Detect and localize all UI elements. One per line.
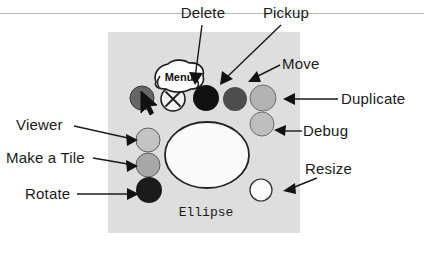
ellipse-shape[interactable] <box>165 122 249 188</box>
ellipse-shape-label: Ellipse <box>179 205 234 220</box>
callout-debug-label: Debug <box>303 122 348 139</box>
debug-handle[interactable] <box>250 112 274 136</box>
callout-resize-label: Resize <box>305 160 352 177</box>
rotate-handle[interactable] <box>136 177 162 203</box>
callout-rotate-label: Rotate <box>25 185 70 202</box>
pickup-handle[interactable] <box>223 87 247 111</box>
diagram-canvas: Ellipse Menu Delete Pickup Move <box>0 0 424 258</box>
callout-duplicate-label: Duplicate <box>341 90 405 107</box>
resize-handle[interactable] <box>250 179 272 201</box>
callout-pickup-label: Pickup <box>263 4 309 21</box>
callout-move-label: Move <box>282 55 319 72</box>
callout-make-a-tile-label: Make a Tile <box>6 149 85 166</box>
menu-bubble-label: Menu <box>165 71 194 83</box>
duplicate-handle[interactable] <box>250 85 276 111</box>
callout-viewer-label: Viewer <box>16 116 63 133</box>
viewer-handle[interactable] <box>136 128 160 152</box>
figure-root: Ellipse Menu Delete Pickup Move <box>0 0 424 258</box>
callout-delete-label: Delete <box>181 4 226 21</box>
make-a-tile-handle[interactable] <box>136 153 160 177</box>
callout-duplicate: Duplicate <box>283 90 405 107</box>
